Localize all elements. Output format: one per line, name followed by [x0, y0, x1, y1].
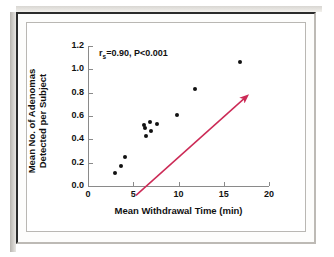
figure-image: 0.00.20.40.60.81.01.2 05101520 rs=0.90, … [0, 0, 334, 257]
figure-inner-panel [26, 22, 306, 232]
